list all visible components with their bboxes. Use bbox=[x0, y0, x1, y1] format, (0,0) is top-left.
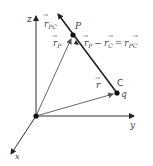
z-axis-label: z bbox=[27, 14, 32, 24]
point-c-dot bbox=[114, 90, 119, 95]
difference-equation: → → → rP−rC=rPC bbox=[83, 32, 138, 49]
vector-diagram: z y x P C q → rPC → rP → r → → → rP−rC=r… bbox=[0, 0, 153, 166]
origin-dot bbox=[33, 113, 38, 118]
vector-r bbox=[36, 94, 113, 116]
vector-r-pc bbox=[58, 14, 117, 93]
equation-text: rP−rC=rPC bbox=[84, 38, 138, 49]
point-c-label: C bbox=[117, 78, 123, 88]
r-pc-label: rPC bbox=[44, 19, 57, 30]
eq-arrow-3: → bbox=[133, 32, 138, 39]
y-axis-label: y bbox=[129, 120, 136, 130]
diagram-canvas: z y x P C q → rPC → rP → r → → → rP−rC=r… bbox=[0, 0, 153, 166]
x-axis-label: x bbox=[15, 152, 20, 161]
r-p-label: rP bbox=[53, 38, 62, 49]
r-label: r bbox=[96, 80, 101, 90]
vector-r-p bbox=[36, 39, 71, 116]
x-axis bbox=[11, 116, 36, 154]
point-p-label: P bbox=[74, 21, 82, 31]
r-pc-arrow-glyph: → bbox=[43, 11, 48, 18]
point-p-dot bbox=[70, 32, 75, 37]
eq-arrow-2: → bbox=[108, 32, 113, 39]
charge-q-label: q bbox=[121, 89, 127, 99]
